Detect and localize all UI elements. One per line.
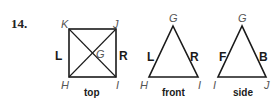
face-label-left: F — [219, 50, 226, 64]
face-label-right: B — [259, 50, 268, 64]
face-label-left: L — [55, 49, 62, 63]
vertex-label-g: G — [169, 12, 178, 24]
view-label-side: side — [233, 87, 253, 98]
vertex-label-h: H — [140, 79, 148, 91]
vertex-label-g: G — [96, 48, 105, 60]
vertex-label-h: H — [61, 79, 69, 91]
face-label-right: R — [190, 50, 199, 64]
face-label-right: R — [119, 49, 128, 63]
top-view: K J H I G L R top — [55, 18, 128, 98]
vertex-label-i: I — [213, 79, 216, 91]
vertex-label-j: J — [112, 18, 119, 30]
face-label-left: L — [147, 50, 154, 64]
view-label-front: front — [162, 87, 185, 98]
vertex-label-i: I — [198, 79, 201, 91]
vertex-label-k: K — [61, 18, 69, 30]
side-view: G I J F B side — [213, 12, 270, 98]
orthographic-views-diagram: 14. K J H I G L R top G H I L R front G … — [0, 0, 272, 105]
vertex-label-i: I — [116, 79, 119, 91]
vertex-label-g: G — [238, 12, 247, 24]
front-view: G H I L R front — [140, 12, 201, 98]
view-label-top: top — [84, 87, 100, 98]
vertex-label-j: J — [263, 79, 270, 91]
problem-number: 14. — [11, 16, 27, 31]
